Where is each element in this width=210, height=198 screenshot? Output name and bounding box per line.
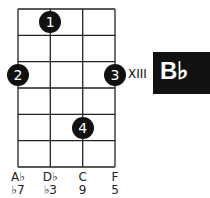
chord-name: B♭	[160, 57, 188, 85]
string-note: F	[105, 171, 125, 183]
chord-name-box: B♭	[153, 52, 210, 94]
string-interval: 9	[73, 184, 93, 196]
finger-dot-2: 2	[7, 64, 29, 86]
finger-dot-3: 3	[104, 64, 126, 86]
string-interval: ♭7	[8, 184, 28, 196]
string-note: C	[73, 171, 93, 183]
fretboard-grid	[0, 0, 210, 198]
fret-position-label: XIII	[128, 67, 147, 81]
string-note: D♭	[40, 171, 60, 183]
finger-dot-1: 1	[39, 11, 61, 33]
string-note: A♭	[8, 171, 28, 183]
finger-dot-4: 4	[72, 117, 94, 139]
string-interval: 5	[105, 184, 125, 196]
string-interval: ♭3	[40, 184, 60, 196]
